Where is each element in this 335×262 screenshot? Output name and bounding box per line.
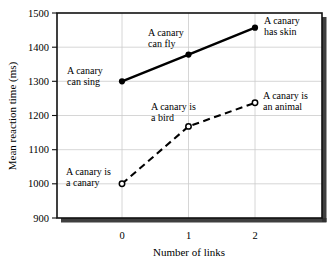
annotation-canary-can-fly-line2: can fly bbox=[148, 38, 176, 49]
y-tick-label-900: 900 bbox=[33, 213, 49, 224]
annotation-canary-has-skin-line2: has skin bbox=[264, 26, 297, 37]
y-tick-label-1100: 1100 bbox=[28, 144, 49, 155]
y-tick-label-1000: 1000 bbox=[28, 178, 49, 189]
x-tick-label-0: 0 bbox=[119, 230, 124, 241]
data-point-canary-can-fly bbox=[185, 52, 191, 58]
data-point-canary-can-sing bbox=[119, 78, 125, 84]
x-tick-label-2: 2 bbox=[252, 230, 257, 241]
annotation-canary-is-a-bird-line1: A canary is bbox=[151, 101, 196, 112]
data-point-canary-is-a-canary bbox=[119, 181, 124, 186]
annotation-canary-can-sing: A canary can sing bbox=[67, 65, 103, 87]
chart-figure: 1500 1400 1300 1200 1100 1000 900 0 1 2 … bbox=[0, 0, 335, 262]
data-point-canary-has-skin bbox=[252, 25, 258, 31]
x-axis-title: Number of links bbox=[153, 246, 225, 258]
y-tick-label-1300: 1300 bbox=[28, 76, 49, 87]
y-tick-label-1400: 1400 bbox=[28, 42, 49, 53]
annotation-canary-has-skin: A canary has skin bbox=[264, 15, 300, 37]
reaction-time-line-chart: 1500 1400 1300 1200 1100 1000 900 0 1 2 … bbox=[0, 0, 335, 262]
annotation-canary-is-a-canary-line2: a canary bbox=[66, 177, 100, 188]
annotation-canary-is-an-animal-line1: A canary is bbox=[263, 90, 308, 101]
annotation-canary-has-skin-line1: A canary bbox=[264, 15, 300, 26]
y-tick-label-1200: 1200 bbox=[28, 110, 49, 121]
annotation-canary-is-a-canary-line1: A canary is bbox=[66, 166, 111, 177]
data-point-canary-is-a-bird bbox=[186, 124, 191, 129]
y-tick-label-1500: 1500 bbox=[28, 8, 49, 19]
x-tick-label-1: 1 bbox=[186, 230, 191, 241]
annotation-canary-can-sing-line1: A canary bbox=[67, 65, 103, 76]
y-axis-title: Mean reaction time (ms) bbox=[6, 61, 19, 170]
annotation-canary-can-sing-line2: can sing bbox=[67, 76, 100, 87]
data-point-canary-is-an-animal bbox=[252, 100, 257, 105]
annotation-canary-can-fly-line1: A canary bbox=[148, 27, 184, 38]
annotation-canary-is-an-animal-line2: an animal bbox=[263, 101, 302, 112]
annotation-canary-is-an-animal: A canary is an animal bbox=[263, 90, 308, 112]
annotation-canary-is-a-bird-line2: a bird bbox=[151, 112, 174, 123]
